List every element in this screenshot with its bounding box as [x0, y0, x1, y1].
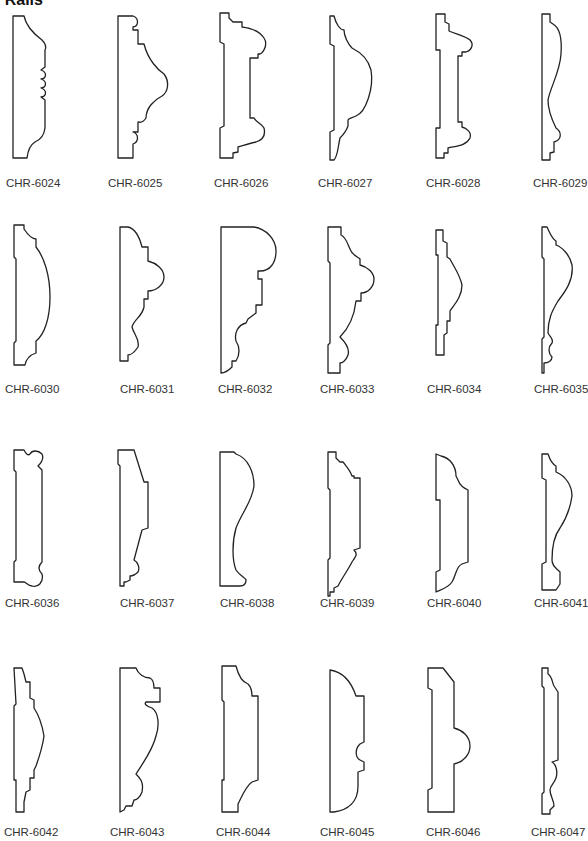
- molding-profile-icon: [0, 410, 98, 610]
- profile-code-label: CHR-6033: [320, 383, 374, 395]
- profile-code-label: CHR-6031: [120, 383, 174, 395]
- molding-profile-icon: [98, 0, 196, 200]
- molding-profile-icon: [294, 0, 392, 200]
- profile-code-label: CHR-6025: [108, 177, 162, 189]
- molding-profile-icon: [294, 630, 392, 830]
- profile-code-label: CHR-6039: [320, 597, 374, 609]
- profile-code-label: CHR-6043: [110, 826, 164, 838]
- profile-code-label: CHR-6037: [120, 597, 174, 609]
- profile-code-label: CHR-6047: [531, 826, 585, 838]
- molding-profile-icon: [0, 0, 98, 200]
- molding-profile-icon: [196, 0, 294, 200]
- profile-code-label: CHR-6041: [534, 597, 588, 609]
- profile-code-label: CHR-6029: [533, 177, 587, 189]
- molding-profile-icon: [196, 410, 294, 610]
- molding-profile-icon: [98, 630, 196, 830]
- profile-code-label: CHR-6034: [427, 383, 481, 395]
- profile-code-label: CHR-6046: [426, 826, 480, 838]
- profile-code-label: CHR-6026: [214, 177, 268, 189]
- profile-code-label: CHR-6035: [534, 383, 588, 395]
- molding-profile-icon: [392, 0, 490, 200]
- profile-code-label: CHR-6030: [5, 383, 59, 395]
- molding-profile-icon: [490, 630, 588, 830]
- profile-code-label: CHR-6042: [4, 826, 58, 838]
- molding-profile-icon: [392, 630, 490, 830]
- molding-profile-icon: [392, 410, 490, 610]
- profile-code-label: CHR-6036: [5, 597, 59, 609]
- molding-profile-icon: [196, 630, 294, 830]
- molding-profile-icon: [0, 630, 98, 830]
- profile-code-label: CHR-6040: [427, 597, 481, 609]
- profile-code-label: CHR-6038: [220, 597, 274, 609]
- profile-code-label: CHR-6044: [216, 826, 270, 838]
- molding-profile-icon: [490, 0, 588, 200]
- profile-code-label: CHR-6045: [320, 826, 374, 838]
- profile-code-label: CHR-6027: [318, 177, 372, 189]
- profile-code-label: CHR-6028: [426, 177, 480, 189]
- profile-code-label: CHR-6032: [218, 383, 272, 395]
- molding-profile-icon: [98, 410, 196, 610]
- molding-profile-icon: [490, 410, 588, 610]
- profile-code-label: CHR-6024: [6, 177, 60, 189]
- molding-profile-icon: [294, 410, 392, 610]
